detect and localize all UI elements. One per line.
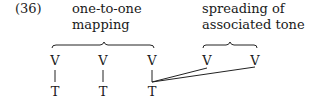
vowel-1: V xyxy=(50,54,59,68)
tone-1: T xyxy=(51,85,60,99)
tone-3: T xyxy=(148,85,157,99)
brace-right xyxy=(203,42,257,48)
brace-left xyxy=(52,42,154,48)
vowel-5: V xyxy=(250,54,259,68)
vowel-4: V xyxy=(202,54,211,68)
vowel-3: V xyxy=(147,54,156,68)
vowel-2: V xyxy=(98,54,107,68)
tone-2: T xyxy=(99,85,108,99)
